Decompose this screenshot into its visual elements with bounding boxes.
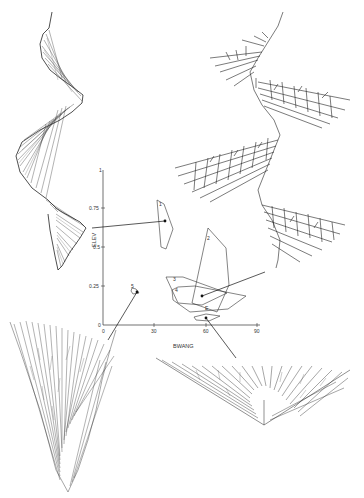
- y-tick-025: 0.25: [89, 283, 99, 289]
- region-3-label: 3: [173, 276, 176, 282]
- leader-line-4: [202, 272, 265, 296]
- y-tick-0: 0: [98, 322, 101, 328]
- x-tick-90: 90: [254, 328, 260, 334]
- y-axis-label: ELEV: [91, 233, 97, 247]
- region-2-polygon: [192, 228, 229, 312]
- region-4-polygon: [172, 286, 246, 312]
- region-2-label: 2: [207, 235, 210, 241]
- region-5-label: 5: [131, 283, 134, 289]
- x-axis-label: BWANG: [173, 343, 194, 349]
- y-tick-1: 1: [99, 167, 102, 173]
- region-1-label: 1: [159, 201, 162, 207]
- region-4-label: 4: [175, 287, 178, 293]
- y-tick-075: 0.75: [89, 205, 99, 211]
- x-tick-0: 0: [102, 328, 105, 334]
- figure: 1 0.75 0.5 0.25 0 0 30 60 90 BWANG ELEV …: [0, 0, 364, 498]
- region-1-polygon: [157, 200, 173, 249]
- scatter-chart: 1 0.75 0.5 0.25 0 0 30 60 90 BWANG ELEV …: [89, 167, 265, 358]
- x-tick-30: 30: [151, 328, 157, 334]
- x-tick-60: 60: [203, 328, 209, 334]
- flat-fan-tree: [156, 358, 350, 425]
- region-e-label: E: [205, 305, 209, 311]
- upright-cone-tree: [10, 321, 116, 492]
- leader-line-5: [108, 292, 137, 340]
- spiral-branched-tree: [175, 12, 350, 268]
- leader-line-6: [206, 318, 236, 358]
- spiral-ribbon-tree: [16, 12, 86, 270]
